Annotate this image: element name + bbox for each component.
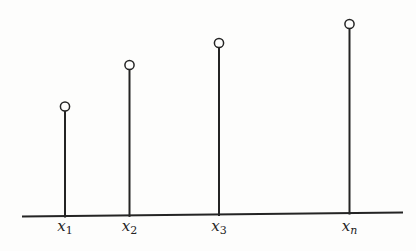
stem-marker-open-circle xyxy=(345,19,354,28)
stem-marker-open-circle xyxy=(60,102,69,111)
x-tick-label: x2 xyxy=(122,217,137,237)
scanned-page: x1x2x3xn xyxy=(0,0,416,251)
x-tick-label: xn xyxy=(342,217,358,237)
stem-plot-figure: x1x2x3xn xyxy=(0,0,416,251)
stem-marker-open-circle xyxy=(214,38,223,47)
stem-marker-open-circle xyxy=(125,60,134,69)
x-tick-label: x3 xyxy=(211,217,226,237)
x-tick-label: x1 xyxy=(57,217,72,237)
stem-plot-canvas: x1x2x3xn xyxy=(0,0,416,251)
